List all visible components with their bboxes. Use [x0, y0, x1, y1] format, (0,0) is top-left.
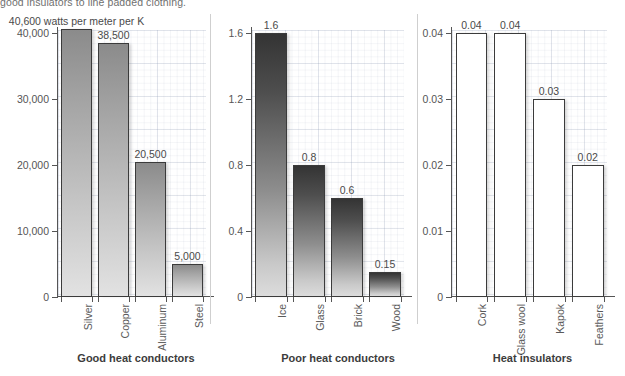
y-tick-label: 0.01	[423, 225, 443, 237]
y-tick-label: 0.04	[423, 27, 443, 39]
x-category-label: Kapok	[554, 304, 566, 334]
panel-divider-2	[417, 14, 418, 324]
chart-panel-good-heat-conductors: 010,00020,00030,00040,000 40,600 watts p…	[0, 14, 212, 376]
y-tick-mark	[246, 297, 252, 298]
chart-caption-2: Poor heat conductors	[213, 352, 441, 364]
x-tick-mark	[166, 297, 167, 302]
plot-area-1: 010,00020,00030,00040,000 40,600 watts p…	[58, 33, 206, 297]
bar-cork[interactable]: 0.04Cork	[456, 33, 488, 297]
plot-area-3: 00.010.020.030.04 0.04Cork0.04Glass wool…	[452, 33, 607, 297]
bar-silver[interactable]: 40,600 watts per meter per KSilver	[61, 29, 92, 297]
x-category-label: Wood	[390, 304, 402, 331]
figure-root: good insulators to line padded clothing.…	[0, 0, 625, 376]
y-tick-mark	[446, 297, 452, 298]
x-tick-mark	[129, 297, 130, 302]
y-tick-label: 1.2	[228, 93, 243, 105]
chart-panels: 010,00020,00030,00040,000 40,600 watts p…	[0, 14, 625, 376]
x-tick-mark	[401, 297, 402, 302]
bar-glass[interactable]: 0.8Glass	[293, 165, 325, 297]
bar-value-label: 38,500	[97, 29, 129, 41]
body-paragraph-text: good insulators to line padded clothing.	[0, 0, 186, 10]
bar-value-label: 0.04	[461, 19, 481, 31]
bar-glass-wool[interactable]: 0.04Glass wool	[494, 33, 526, 297]
x-tick-mark	[369, 297, 370, 302]
bar-ice[interactable]: 1.6Ice	[255, 33, 287, 297]
x-tick-mark	[293, 297, 294, 302]
plot-area-2: 00.40.81.21.6 1.6Ice0.8Glass0.6Brick0.15…	[252, 33, 404, 297]
bar-value-label: 5,000	[174, 250, 200, 262]
y-tick-label: 0.8	[228, 159, 243, 171]
y-tick-label: 20,000	[17, 159, 49, 171]
x-tick-mark	[604, 297, 605, 302]
y-tick-label: 0	[437, 291, 443, 303]
x-tick-mark	[572, 297, 573, 302]
y-tick-mark	[52, 297, 58, 298]
chart-caption-1: Good heat conductors	[0, 352, 242, 364]
x-tick-mark	[331, 297, 332, 302]
x-tick-mark	[565, 297, 566, 302]
y-tick-label: 10,000	[17, 225, 49, 237]
y-tick-label: 0.4	[228, 225, 243, 237]
bar-value-label: 0.8	[302, 151, 317, 163]
bar-value-label: 0.04	[500, 19, 520, 31]
x-tick-mark	[135, 297, 136, 302]
panel-divider-1	[210, 14, 211, 324]
bar-aluminum[interactable]: 20,500Aluminum	[135, 162, 166, 297]
y-tick-label: 0.03	[423, 93, 443, 105]
x-tick-mark	[172, 297, 173, 302]
x-category-label: Cork	[476, 304, 488, 326]
x-category-label: Copper	[119, 304, 131, 338]
x-category-label: Aluminum	[156, 304, 168, 351]
bars-2: 1.6Ice0.8Glass0.6Brick0.15Wood	[252, 33, 404, 297]
x-category-label: Steel	[193, 304, 205, 328]
bar-value-label: 0.03	[539, 85, 559, 97]
bar-value-label: 0.02	[577, 151, 597, 163]
bar-feathers[interactable]: 0.02Feathers	[572, 165, 604, 297]
x-tick-mark	[203, 297, 204, 302]
x-tick-mark	[325, 297, 326, 302]
x-category-label: Glass wool	[515, 304, 527, 355]
x-category-label: Silver	[82, 304, 94, 330]
bars-3: 0.04Cork0.04Glass wool0.03Kapok0.02Feath…	[452, 33, 607, 297]
bar-value-label: 1.6	[264, 19, 279, 31]
x-category-label: Ice	[276, 304, 288, 318]
x-category-label: Glass	[314, 304, 326, 331]
x-tick-mark	[98, 297, 99, 302]
y-tick-label: 40,000	[17, 27, 49, 39]
x-tick-mark	[92, 297, 93, 302]
y-tick-label: 0	[43, 291, 49, 303]
x-category-label: Brick	[352, 304, 364, 327]
x-tick-mark	[363, 297, 364, 302]
bar-kapok[interactable]: 0.03Kapok	[533, 99, 565, 297]
x-tick-mark	[287, 297, 288, 302]
chart-panel-poor-heat-conductors: 00.40.81.21.6 1.6Ice0.8Glass0.6Brick0.15…	[213, 14, 419, 376]
x-tick-mark	[487, 297, 488, 302]
chart-panel-heat-insulators: 00.010.020.030.04 0.04Cork0.04Glass wool…	[420, 14, 625, 376]
bars-1: 40,600 watts per meter per KSilver38,500…	[58, 33, 206, 297]
bar-steel[interactable]: 5,000Steel	[172, 264, 203, 297]
bar-value-label: 0.15	[375, 258, 395, 270]
bar-value-label: 0.6	[340, 184, 355, 196]
bar-brick[interactable]: 0.6Brick	[331, 198, 363, 297]
y-tick-label: 0.02	[423, 159, 443, 171]
x-tick-mark	[533, 297, 534, 302]
y-tick-label: 30,000	[17, 93, 49, 105]
bar-copper[interactable]: 38,500Copper	[98, 43, 129, 297]
x-tick-mark	[456, 297, 457, 302]
x-tick-mark	[61, 297, 62, 302]
bar-value-label: 20,500	[134, 148, 166, 160]
x-tick-mark	[494, 297, 495, 302]
x-category-label: Feathers	[593, 304, 605, 345]
y-tick-label: 0	[237, 291, 243, 303]
y-tick-label: 1.6	[228, 27, 243, 39]
chart-caption-3: Heat insulators	[420, 352, 625, 364]
bar-value-label: 40,600 watts per meter per K	[9, 15, 144, 27]
x-tick-mark	[255, 297, 256, 302]
bar-wood[interactable]: 0.15Wood	[369, 272, 401, 297]
x-tick-mark	[526, 297, 527, 302]
